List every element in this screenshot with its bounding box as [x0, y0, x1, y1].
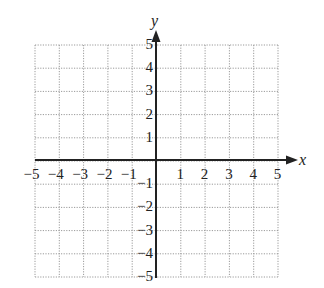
x-axis-label: x	[298, 151, 306, 168]
y-tick-label: −4	[137, 245, 153, 261]
x-tick-label: 5	[274, 166, 282, 182]
x-tick-label: −5	[24, 166, 40, 182]
y-tick-label: 2	[146, 106, 154, 122]
y-tick-label: 3	[146, 82, 154, 98]
y-tick-label: 4	[146, 59, 154, 75]
coordinate-plane: x y −5−4−3−2−112345 54321−1−2−3−4−5	[0, 0, 324, 288]
y-tick-label: −2	[137, 198, 153, 214]
x-tick-label: 1	[177, 166, 185, 182]
x-tick-label: −2	[96, 166, 112, 182]
y-tick-label: 1	[146, 129, 154, 145]
y-tick-label: 5	[146, 36, 154, 52]
x-tick-label: −3	[72, 166, 88, 182]
x-axis-arrow-icon	[286, 156, 298, 165]
x-tick-label: 2	[201, 166, 209, 182]
y-axis-label: y	[149, 12, 159, 30]
x-tick-label: 3	[225, 166, 233, 182]
x-tick-label: −4	[48, 166, 64, 182]
y-tick-label: −5	[137, 268, 153, 284]
y-tick-label: −1	[137, 175, 153, 191]
x-tick-label: −1	[121, 166, 137, 182]
x-tick-label: 4	[249, 166, 257, 182]
y-tick-label: −3	[137, 222, 153, 238]
